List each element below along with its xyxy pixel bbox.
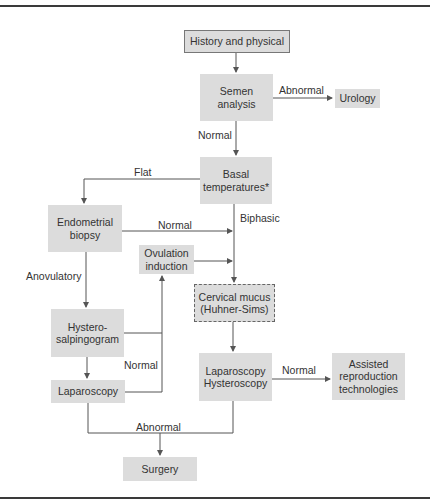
node-endometrial-biopsy: Endometrialbiopsy [48, 205, 122, 252]
node-history-and-physical: History and physical [184, 30, 290, 53]
node-cervical-mucus: Cervical mucus(Huhner-Sims) [194, 284, 275, 322]
edge-label-semen-normal: Normal [198, 129, 232, 141]
edge-label-semen-abnormal: Abnormal [279, 84, 324, 96]
edge-label-laphyst-normal: Normal [282, 364, 316, 376]
edge-label-anovulatory: Anovulatory [26, 270, 81, 282]
edge-label-hsg-normal: Normal [124, 359, 158, 371]
edge-label-endometrial-normal: Normal [158, 219, 192, 231]
node-laparoscopy-hysteroscopy: LaparoscopyHysteroscopy [199, 353, 272, 401]
node-basal-temperatures: Basaltemperatures* [200, 157, 272, 204]
node-laparoscopy: Laparoscopy [51, 380, 125, 403]
node-ovulation-induction: Ovulationinduction [139, 245, 194, 274]
node-hysterosalpingogram: Hystero-salpingogram [51, 309, 124, 357]
node-semen-analysis: Semenanalysis [200, 74, 273, 121]
node-urology: Urology [335, 89, 380, 108]
node-surgery: Surgery [123, 457, 197, 481]
edge-label-abnormal-surgery: Abnormal [136, 421, 181, 433]
node-assisted-reproduction: Assistedreproductiontechnologies [332, 353, 405, 400]
edge-label-basal-flat: Flat [134, 166, 152, 178]
edge-label-basal-biphasic: Biphasic [240, 212, 280, 224]
